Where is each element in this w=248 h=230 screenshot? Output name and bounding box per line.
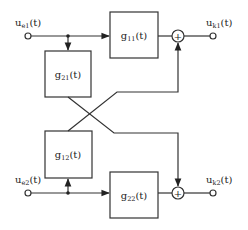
block-diagram: + + g11(t) g21(t) g12(t) g22(t) ue1(t) u… [0,0,248,230]
summer-2-plus: + [174,188,182,199]
input1-terminal [25,33,31,39]
output1-label: uk1(t) [206,17,232,30]
input2-label: ue2(t) [15,174,41,187]
junction-dot-1 [66,34,70,38]
output1-terminal [210,33,216,39]
g21-to-sum2-line [68,97,178,186]
output2-label: uk2(t) [206,174,232,187]
g12-label: g12(t) [55,149,82,162]
summer-1-plus: + [174,31,182,42]
input1-label: ue1(t) [15,17,41,30]
g22-label: g22(t) [121,190,148,203]
input2-terminal [25,190,31,196]
output2-terminal [210,190,216,196]
g12-to-sum1-line [68,43,178,131]
g11-label: g11(t) [121,30,148,43]
g21-label: g21(t) [55,69,82,82]
junction-dot-2 [66,191,70,195]
